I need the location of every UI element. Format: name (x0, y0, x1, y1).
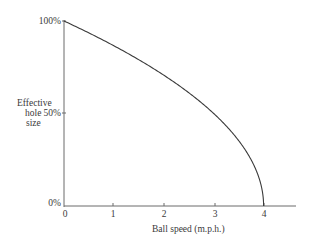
x-tick-label-2: 2 (162, 209, 167, 219)
y-tick-label-50: 50% (44, 108, 62, 118)
y-axis-title-line-1: Effective (17, 98, 52, 108)
x-tick-label-3: 3 (213, 209, 218, 219)
x-tick-label-1: 1 (111, 209, 116, 219)
x-tick-label-4: 4 (262, 209, 267, 219)
x-tick-label-0: 0 (63, 209, 68, 219)
y-tick-label-100: 100% (39, 16, 61, 26)
y-axis-title-line-2: hole (25, 108, 41, 118)
effective-hole-size-curve (64, 21, 264, 206)
x-axis: 0 1 2 3 4 Ball speed (m.p.h.) (63, 203, 296, 235)
y-tick-label-0: 0% (48, 198, 61, 208)
chart: 100% 50% 0% Effective hole size 0 1 2 3 … (0, 0, 309, 240)
x-axis-title: Ball speed (m.p.h.) (152, 224, 225, 235)
y-axis: 100% 50% 0% (39, 16, 66, 208)
y-axis-title-line-3: size (26, 118, 41, 128)
